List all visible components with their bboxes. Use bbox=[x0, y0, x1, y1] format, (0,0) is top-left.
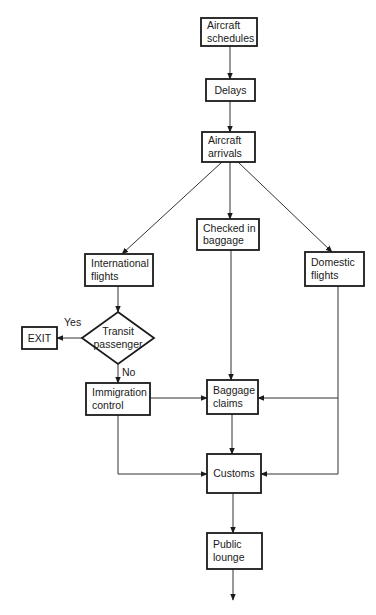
node-aircraft-arrivals: Aircraftarrivals bbox=[202, 132, 255, 162]
node-label-line: flights bbox=[91, 270, 118, 282]
node-label-line: Aircraft bbox=[208, 134, 241, 146]
edge-label-no: No bbox=[122, 366, 136, 378]
node-checked-in-baggage: Checked inbaggage bbox=[197, 219, 259, 250]
node-label-line: claims bbox=[213, 397, 243, 409]
edge-immigration-control-to-customs bbox=[118, 415, 207, 474]
node-label-line: Customs bbox=[213, 467, 254, 479]
node-public-lounge: Publiclounge bbox=[207, 533, 262, 569]
node-baggage-claims: Baggageclaims bbox=[207, 380, 258, 414]
node-label-line: Checked in bbox=[203, 222, 256, 234]
node-label-line: baggage bbox=[203, 234, 244, 246]
node-transit-passenger: Transitpassenger bbox=[82, 312, 154, 364]
node-label-line: Public bbox=[213, 538, 242, 550]
node-immigration-control: Immigrationcontrol bbox=[86, 383, 150, 415]
node-label-line: Baggage bbox=[213, 384, 255, 396]
nodes-layer: AircraftschedulesDelaysAircraftarrivalsC… bbox=[22, 18, 364, 569]
node-label-line: schedules bbox=[207, 32, 254, 44]
node-label-line: passenger bbox=[93, 338, 143, 350]
edge-label-yes: Yes bbox=[64, 316, 81, 328]
edge-domestic-flights-to-customs bbox=[261, 398, 338, 474]
edge-domestic-flights-to-baggage-claims bbox=[258, 286, 338, 398]
node-aircraft-schedules: Aircraftschedules bbox=[201, 18, 257, 46]
flowchart-canvas: AircraftschedulesDelaysAircraftarrivalsC… bbox=[0, 0, 376, 615]
node-label-line: lounge bbox=[213, 551, 245, 563]
node-label-line: arrivals bbox=[208, 147, 242, 159]
node-customs: Customs bbox=[207, 454, 261, 493]
node-label-line: Transit bbox=[102, 325, 134, 337]
node-label-line: Domestic bbox=[311, 256, 355, 268]
node-domestic-flights: Domesticflights bbox=[305, 252, 364, 286]
node-label-line: Aircraft bbox=[207, 19, 240, 31]
node-international-flights: Internationalflights bbox=[85, 254, 153, 286]
node-label-line: Immigration bbox=[92, 386, 147, 398]
node-label-line: EXIT bbox=[28, 332, 52, 344]
node-label-line: International bbox=[91, 257, 149, 269]
node-label-line: control bbox=[92, 399, 124, 411]
edges-layer bbox=[57, 46, 338, 600]
node-label-line: Delays bbox=[214, 84, 246, 96]
node-label-line: flights bbox=[311, 269, 338, 281]
node-exit: EXIT bbox=[22, 327, 57, 349]
node-delays: Delays bbox=[206, 79, 255, 101]
